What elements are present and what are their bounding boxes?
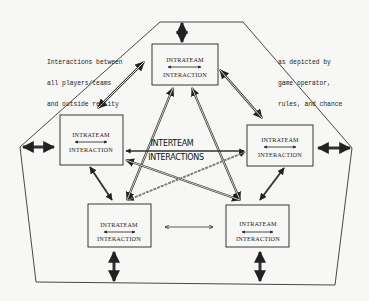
interteam-label-1: INTERTEAM [151,139,194,148]
box-bottom-left-label-1: INTRATEAM [100,221,138,228]
interteam-label-2: INTERACTIONS [148,153,204,162]
box-top-label-2: INTERACTION [163,71,207,78]
annotation-left-line-2: all players/teams [47,80,123,87]
annotation-left-line-1: Interactions between [47,59,123,66]
box-bottom-left-label-2: INTERACTION [97,235,141,242]
box-right-label-2: INTERACTION [258,151,302,158]
annotation-right: as depicted by game operator, rules, and… [278,45,342,115]
box-right-label-1: INTRATEAM [261,136,299,143]
annotation-right-line-1: as depicted by [278,59,342,66]
box-top [152,44,218,85]
annotation-right-line-2: game operator, [278,80,342,87]
box-bottom-right-label-1: INTRATEAM [239,220,277,227]
box-left-label-1: INTRATEAM [72,131,110,138]
box-left [60,115,123,165]
annotation-right-line-3: rules, and chance [278,101,342,108]
box-right [247,125,313,166]
annotation-left: Interactions between all players/teams a… [47,45,123,115]
annotation-left-line-3: and outside reality [47,101,123,108]
box-bottom-right-label-2: INTERACTION [236,235,280,242]
box-left-label-2: INTERACTION [69,146,113,153]
box-top-label-1: INTRATEAM [166,56,204,63]
